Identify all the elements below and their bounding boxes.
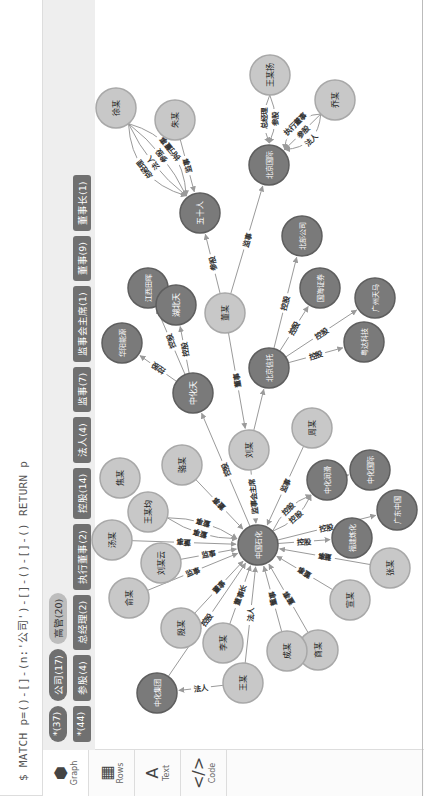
node-caption: 商某 — [313, 642, 323, 658]
graph-node[interactable]: 华阳能源 — [102, 323, 142, 363]
node-caption: 骆某 — [177, 457, 187, 473]
node-caption: 中化润滑 — [323, 466, 332, 494]
edge-label: 控股 — [297, 536, 313, 547]
graph-node[interactable]: 王某均 — [128, 492, 168, 532]
node-caption: 王某扬 — [265, 63, 275, 87]
node-caption: 国海证券 — [316, 274, 325, 302]
graph-node[interactable]: 宣某 — [330, 580, 370, 620]
node-caption: 福建炼化 — [348, 524, 357, 552]
graph-node[interactable]: 中化润滑 — [307, 460, 347, 500]
graph-node[interactable]: 刘某云 — [141, 543, 181, 583]
graph-node[interactable]: 汤某 — [92, 520, 132, 560]
graph-node[interactable]: 中化国际 — [350, 450, 390, 490]
node-caption: 宣某 — [345, 592, 355, 608]
graph-node[interactable]: 李某 — [203, 623, 243, 663]
node-caption: 中化国际 — [366, 456, 375, 484]
graph-node[interactable]: 俞某 — [109, 578, 149, 618]
node-caption: 北京国际 — [265, 151, 274, 179]
graph-node[interactable]: 徐某 — [96, 88, 136, 128]
edge-label: 法人 — [193, 682, 209, 694]
node-caption: 江西田晖 — [145, 274, 153, 302]
edge-label: 法人 — [245, 607, 257, 623]
graph-node[interactable]: 焦某 — [100, 458, 140, 498]
graph-node[interactable]: 广东中国 — [377, 490, 417, 530]
relationship-edge[interactable] — [254, 389, 264, 430]
edge-label: 董事长 — [232, 582, 249, 606]
node-caption: 乔某 — [330, 92, 340, 108]
graph-node[interactable]: 骆某 — [162, 445, 202, 485]
node-caption: 俞某 — [124, 590, 134, 606]
edge-label: 总经理 — [259, 107, 269, 129]
node-caption: 刘某云 — [156, 551, 166, 575]
node-caption: 湖北天 — [172, 293, 181, 317]
node-caption: 粤达科技 — [360, 328, 369, 356]
node-caption: 焦某 — [115, 470, 125, 486]
graph-node[interactable]: 粤达科技 — [344, 322, 384, 362]
graph-node[interactable]: 周某 — [292, 408, 332, 448]
node-caption: 李某 — [218, 635, 228, 651]
node-caption: 朱某 — [170, 112, 180, 128]
node-caption: 汤某 — [108, 532, 117, 548]
graph-node[interactable]: 殷某 — [161, 608, 201, 648]
edge-label: 董事 — [316, 550, 332, 562]
edge-label: 参股 — [270, 111, 280, 126]
graph-node[interactable]: 国海证券 — [300, 268, 340, 308]
node-caption: 北部公司 — [298, 222, 307, 250]
edge-label: 监事会主席 — [247, 478, 260, 515]
graph-node[interactable]: 张某 — [370, 548, 410, 588]
node-caption: 王某均 — [143, 500, 153, 524]
node-caption: 张某 — [386, 560, 395, 576]
graph-node[interactable]: 王某 — [223, 663, 263, 703]
graph-node[interactable]: 乔某 — [315, 80, 355, 120]
node-caption: 周某 — [308, 420, 317, 436]
graph-node[interactable]: 广州天马 — [355, 278, 395, 318]
edge-label: 监事 — [201, 548, 218, 561]
graph-node[interactable]: 五十人 — [180, 193, 220, 233]
node-caption: 成某 — [282, 643, 292, 659]
node-caption: 广州天马 — [371, 284, 380, 312]
edge-label: 董事 — [176, 537, 191, 548]
frame-bottom-border — [422, 0, 423, 796]
graph-node[interactable]: 朱某 — [155, 100, 195, 140]
node-caption: 中化集团 — [153, 679, 162, 707]
graph-node[interactable]: 中化天 — [173, 373, 213, 413]
graph-node[interactable]: 刘某 — [229, 430, 269, 470]
graph-node[interactable]: 湖北天 — [156, 285, 196, 325]
graph-node[interactable]: 福建炼化 — [332, 518, 372, 558]
node-caption: 董某 — [220, 305, 230, 321]
graph-node[interactable]: 中国石化 — [238, 525, 278, 565]
node-caption: 刘某 — [244, 442, 254, 458]
node-caption: 王某 — [239, 675, 248, 691]
graph-node[interactable]: 成某 — [267, 631, 307, 671]
edge-label: 董事 — [231, 372, 243, 389]
node-caption: 中化天 — [188, 381, 198, 405]
node-caption: 中国石化 — [254, 531, 263, 559]
graph-node[interactable]: 北京信托 — [249, 348, 289, 388]
graph-canvas[interactable]: 法人法人董事长董事控股监事监事董事董事董事董事监事会主席监事控股控股控股控股控股… — [94, 0, 423, 750]
graph-node[interactable]: 董某 — [205, 293, 245, 333]
node-caption: 五十人 — [195, 201, 205, 225]
graph-node[interactable]: 中化集团 — [137, 673, 177, 713]
graph-node[interactable]: 王某扬 — [250, 55, 290, 95]
node-caption: 徐某 — [111, 100, 121, 116]
node-caption: 华阳能源 — [118, 329, 127, 357]
node-caption: 殷某 — [176, 620, 186, 636]
node-caption: 广东中国 — [393, 496, 402, 524]
graph-node[interactable]: 北部公司 — [282, 216, 322, 256]
node-caption: 北京信托 — [265, 354, 274, 382]
graph-node[interactable]: 北京国际 — [249, 145, 289, 185]
